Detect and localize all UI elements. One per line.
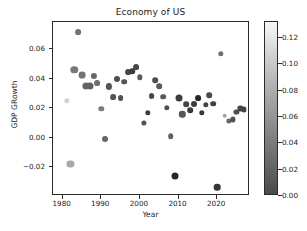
data-point	[223, 113, 228, 118]
data-point	[75, 29, 81, 35]
y-axis-tick-label: 0.04	[29, 73, 45, 82]
data-point	[106, 83, 112, 89]
y-axis-tick-label: 0.02	[29, 103, 45, 112]
colorbar-tick-label: 0.04	[282, 138, 298, 147]
data-point	[71, 66, 78, 73]
data-point	[171, 172, 178, 179]
y-axis-tick-label: 0.06	[29, 44, 45, 53]
data-point	[86, 82, 93, 89]
colorbar-tick	[278, 63, 282, 64]
y-axis-tick-label: 0.00	[29, 132, 45, 141]
colorbar-tick-label: 0.06	[282, 111, 298, 120]
x-axis-tick	[62, 195, 63, 199]
data-point	[218, 51, 223, 56]
colorbar-tick	[278, 37, 282, 38]
x-axis-tick-label: 2000	[130, 199, 148, 208]
colorbar-tick	[278, 90, 282, 91]
colorbar-tick	[278, 169, 282, 170]
x-axis-tick-label: 1980	[53, 199, 71, 208]
data-point	[242, 107, 247, 112]
data-point	[214, 184, 221, 191]
data-point	[118, 95, 124, 101]
data-point	[187, 108, 193, 114]
data-point	[122, 79, 128, 85]
x-axis-tick	[139, 195, 140, 199]
colorbar-tick-label: 0.02	[282, 164, 298, 173]
data-point	[156, 84, 162, 90]
x-axis-tick	[216, 195, 217, 199]
y-axis-tick	[49, 78, 53, 79]
x-axis-tick	[100, 195, 101, 199]
x-axis-tick-label: 2020	[207, 199, 225, 208]
data-point	[211, 101, 217, 107]
data-point	[99, 106, 104, 111]
colorbar-tick-labels: 0.120.100.080.060.040.020.00	[282, 21, 307, 195]
data-point	[203, 102, 208, 107]
colorbar-tick-label: 0.00	[282, 191, 298, 200]
data-point	[145, 110, 150, 115]
data-point	[90, 73, 96, 79]
y-axis-tick-label: −0.02	[23, 162, 45, 171]
data-point	[110, 94, 116, 100]
data-point	[183, 101, 189, 107]
colorbar-tick-label: 0.10	[282, 59, 298, 68]
x-axis-label: Year	[52, 210, 249, 219]
data-point	[199, 110, 204, 115]
data-point	[153, 77, 159, 83]
x-axis-tick-label: 1990	[91, 199, 109, 208]
x-axis-tick-label: 2010	[168, 199, 186, 208]
data-point	[67, 161, 74, 168]
y-axis-tick	[49, 137, 53, 138]
colorbar-tick	[278, 142, 282, 143]
y-axis-tick-labels: 0.060.040.020.00−0.02	[0, 21, 45, 195]
y-axis-tick	[49, 166, 53, 167]
data-point	[141, 120, 146, 125]
x-axis-tick	[178, 195, 179, 199]
data-point	[64, 98, 69, 103]
data-point	[133, 64, 139, 70]
data-point	[168, 134, 174, 140]
data-point	[137, 75, 142, 80]
page-title: Economy of US	[52, 7, 249, 17]
plot-axes	[52, 21, 249, 195]
data-point	[95, 81, 101, 87]
y-axis-tick	[49, 48, 53, 49]
colorbar-tick-label: 0.12	[282, 32, 298, 41]
data-point	[175, 94, 182, 101]
data-point	[114, 76, 120, 82]
y-axis-label: GDP GRowth	[10, 70, 19, 140]
colorbar-tick	[278, 116, 282, 117]
colorbar-tick-label: 0.08	[282, 85, 298, 94]
scatter-plot-area	[53, 22, 248, 194]
data-point	[195, 95, 201, 101]
data-point	[149, 94, 155, 100]
data-point	[230, 117, 235, 122]
data-point	[79, 72, 86, 79]
y-axis-tick-marks	[52, 21, 53, 195]
data-point	[160, 94, 166, 100]
colorbar-gradient	[264, 21, 278, 195]
data-point	[102, 136, 108, 142]
data-point	[164, 105, 169, 110]
colorbar-tick	[278, 195, 282, 196]
scatter-chart-figure: Economy of US 0.060.040.020.00−0.02 1980…	[0, 0, 307, 231]
data-point	[191, 101, 197, 107]
data-point	[207, 92, 213, 98]
data-point	[179, 111, 185, 117]
y-axis-tick	[49, 107, 53, 108]
